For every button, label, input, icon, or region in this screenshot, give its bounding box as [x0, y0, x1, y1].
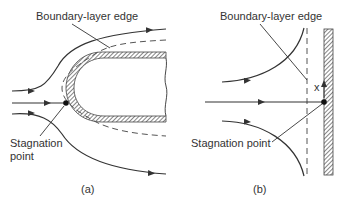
body-cut-edge	[165, 58, 167, 116]
stagnation-point-dot-a	[63, 100, 69, 106]
label-boundary-layer-edge-b: Boundary-layer edge	[220, 10, 322, 22]
label-stagnation-b: Stagnation point	[191, 137, 271, 149]
label-stagnation-a-line1: Stagnation	[10, 137, 63, 149]
streamline-upper-b	[222, 28, 304, 82]
body-wall-hatched	[66, 52, 166, 122]
stagnation-point-dot-b	[321, 99, 327, 105]
leader-boundary-layer-a	[72, 24, 110, 48]
diagram-canvas: Boundary-layer edge Stagnation point (a)…	[0, 0, 342, 207]
panel-b: x Boundary-layer edge Stagnation point (…	[191, 10, 333, 195]
leader-stagnation-b	[272, 104, 322, 142]
caption-a: (a)	[81, 183, 94, 195]
x-axis-label: x	[314, 81, 320, 93]
caption-b: (b)	[253, 183, 266, 195]
panel-a: Boundary-layer edge Stagnation point (a)	[10, 10, 167, 195]
label-stagnation-a-line2: point	[10, 150, 34, 162]
label-boundary-layer-edge-a: Boundary-layer edge	[36, 10, 138, 22]
